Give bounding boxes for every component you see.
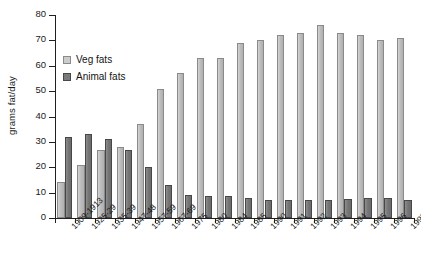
bar-veg-fats [397, 38, 404, 218]
legend-label-animal-fats: Animal fats [76, 71, 125, 82]
y-tick-label: 40 [24, 111, 46, 121]
x-tick-label: 1980 [209, 224, 216, 231]
legend-label-veg-fats: Veg fats [76, 54, 112, 65]
bar-veg-fats [237, 43, 244, 218]
bar-veg-fats [177, 73, 184, 218]
y-tick-label: 10 [24, 187, 46, 197]
y-tick-label: 0 [24, 212, 46, 222]
bar-veg-fats [57, 182, 64, 218]
x-tick-label: 1984 [229, 224, 236, 231]
x-tick-label: 1957-59 [149, 224, 156, 231]
y-tick-label-container: 30 [24, 136, 46, 147]
x-tick-label: 1947-48 [129, 224, 136, 231]
y-tick-label: 30 [24, 136, 46, 146]
fat-consumption-bar-chart: grams fat/day 01020304050607080 1909-191… [0, 0, 421, 275]
plot-area [55, 15, 414, 218]
y-tick-label: 80 [24, 9, 46, 19]
bar-veg-fats [377, 40, 384, 218]
bar-veg-fats [257, 40, 264, 218]
y-axis-title-container: grams fat/day [0, 0, 20, 222]
y-tick-label: 60 [24, 60, 46, 70]
legend-swatch-animal-fats-icon [63, 73, 71, 81]
x-tick-label: 1925-29 [89, 224, 96, 231]
y-tick-label-container: 50 [24, 85, 46, 96]
x-tick-label: 1985 [248, 224, 255, 231]
bar-veg-fats [157, 89, 164, 218]
legend-item-veg-fats: Veg fats [63, 52, 125, 67]
y-tick-label: 20 [24, 161, 46, 171]
bar-veg-fats [117, 147, 124, 218]
x-tick-mark [55, 219, 56, 223]
x-tick-label: 1995 [368, 224, 375, 231]
x-tick-label: 1994 [348, 224, 355, 231]
legend-item-animal-fats: Animal fats [63, 69, 125, 84]
x-tick-label: 1990 [268, 224, 275, 231]
bar-veg-fats [317, 25, 324, 218]
bar-veg-fats [297, 33, 304, 218]
x-tick-label: 1975 [189, 224, 196, 231]
bar-veg-fats [217, 58, 224, 218]
y-tick-label-container: 40 [24, 111, 46, 122]
y-tick-label: 70 [24, 34, 46, 44]
x-tick-label: 1997 [408, 224, 415, 231]
y-tick-label-container: 0 [24, 212, 46, 223]
y-tick-label-container: 20 [24, 161, 46, 172]
bar-veg-fats [357, 35, 364, 218]
y-tick-label: 50 [24, 85, 46, 95]
y-tick-label-container: 80 [24, 9, 46, 20]
y-tick-label-container: 10 [24, 187, 46, 198]
legend-swatch-veg-fats-icon [63, 56, 71, 64]
x-tick-label: 1996 [388, 224, 395, 231]
bar-veg-fats [277, 35, 284, 218]
bar-veg-fats [137, 124, 144, 218]
x-tick-label: 1909-1913 [69, 224, 76, 231]
y-axis-title: grams fat/day [6, 51, 17, 161]
x-tick-label: 1993 [328, 224, 335, 231]
x-tick-label: 1992 [308, 224, 315, 231]
x-tick-label: 1967-69 [169, 224, 176, 231]
chart-legend: Veg fats Animal fats [63, 52, 125, 86]
y-tick-label-container: 60 [24, 60, 46, 71]
x-tick-label: 1935-39 [109, 224, 116, 231]
bar-veg-fats [337, 33, 344, 218]
y-tick-label-container: 70 [24, 34, 46, 45]
bar-veg-fats [197, 58, 204, 218]
bar-animal-fats [65, 137, 72, 218]
x-tick-label: 1991 [288, 224, 295, 231]
